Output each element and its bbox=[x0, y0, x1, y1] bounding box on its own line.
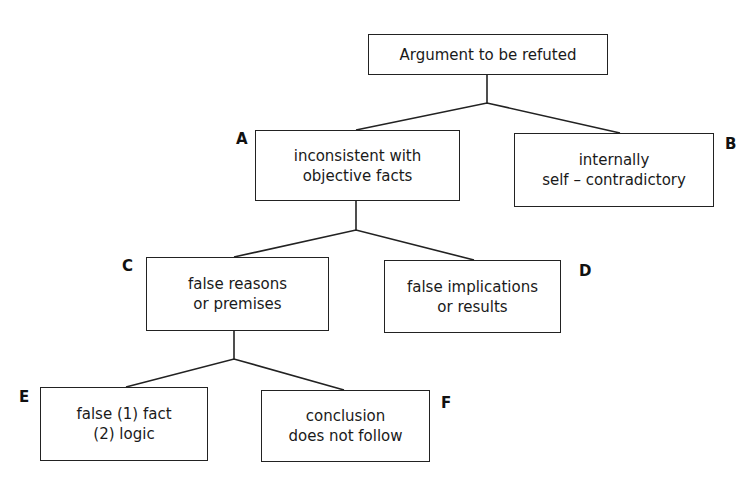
node-d: false implications or results bbox=[384, 260, 561, 333]
label-e: E bbox=[19, 388, 29, 406]
root-branch-lines bbox=[356, 103, 620, 133]
node-c: false reasons or premises bbox=[146, 257, 329, 331]
label-b: B bbox=[725, 135, 736, 153]
node-f: conclusion does not follow bbox=[261, 390, 430, 462]
label-a: A bbox=[236, 130, 248, 148]
node-d-text: false implications or results bbox=[407, 277, 538, 317]
node-c-text: false reasons or premises bbox=[188, 274, 287, 314]
node-e-text: false (1) fact (2) logic bbox=[76, 404, 171, 444]
label-f: F bbox=[441, 394, 451, 412]
node-a: inconsistent with objective facts bbox=[255, 130, 460, 201]
label-d: D bbox=[579, 262, 591, 280]
a-branch-lines bbox=[234, 230, 474, 260]
node-root-text: Argument to be refuted bbox=[399, 45, 576, 65]
c-branch-lines bbox=[126, 359, 344, 390]
node-f-text: conclusion does not follow bbox=[288, 406, 402, 446]
node-root: Argument to be refuted bbox=[368, 34, 608, 75]
node-e: false (1) fact (2) logic bbox=[40, 387, 208, 461]
node-a-text: inconsistent with objective facts bbox=[294, 146, 422, 186]
node-b: internally self – contradictory bbox=[514, 133, 714, 207]
label-c: C bbox=[122, 257, 133, 275]
node-b-text: internally self – contradictory bbox=[542, 150, 686, 190]
